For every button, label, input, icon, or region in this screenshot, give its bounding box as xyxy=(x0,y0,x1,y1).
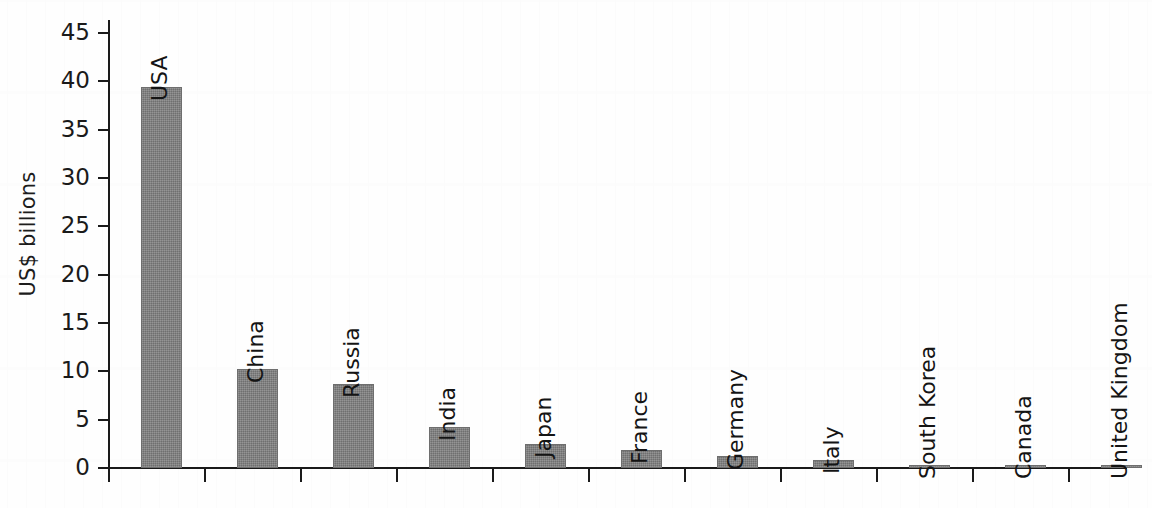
y-tick-label: 35 xyxy=(30,118,90,141)
bar-category-label: India xyxy=(437,387,459,441)
x-tick-mark xyxy=(204,469,206,482)
x-tick-mark xyxy=(588,469,590,482)
y-tick-label: 30 xyxy=(30,166,90,189)
bar-category-label: Italy xyxy=(821,427,843,475)
y-tick-label: 25 xyxy=(30,214,90,237)
x-tick-mark xyxy=(780,469,782,482)
y-tick-mark xyxy=(98,80,110,82)
y-tick-mark xyxy=(98,225,110,227)
y-axis-line xyxy=(108,20,110,469)
y-tick-label: 20 xyxy=(30,263,90,286)
y-tick-label: 45 xyxy=(30,21,90,44)
y-tick-mark xyxy=(98,322,110,324)
bar-chart: US$ billions 051015202530354045 USAChina… xyxy=(0,0,1152,508)
bar-category-label: Russia xyxy=(341,327,363,398)
x-tick-mark xyxy=(876,469,878,482)
y-tick-label: 10 xyxy=(30,359,90,382)
bar-category-label: South Korea xyxy=(917,346,939,479)
bar-category-label: Canada xyxy=(1013,395,1035,479)
bar-category-label: Germany xyxy=(725,369,747,470)
bar-category-label: Japan xyxy=(533,396,555,457)
y-tick-label: 15 xyxy=(30,311,90,334)
bar-category-label: USA xyxy=(149,56,171,102)
bar-category-label: United Kingdom xyxy=(1109,302,1131,479)
y-tick-mark xyxy=(98,32,110,34)
x-tick-mark xyxy=(396,469,398,482)
bar-category-label: France xyxy=(629,390,651,463)
x-tick-mark xyxy=(492,469,494,482)
x-tick-mark xyxy=(108,469,110,482)
bar-category-label: China xyxy=(245,321,267,384)
y-tick-label: 0 xyxy=(30,456,90,479)
y-tick-label: 40 xyxy=(30,69,90,92)
bar xyxy=(141,87,182,468)
x-tick-mark xyxy=(684,469,686,482)
y-tick-label: 5 xyxy=(30,408,90,431)
y-tick-mark xyxy=(98,129,110,131)
x-tick-mark xyxy=(300,469,302,482)
x-tick-mark xyxy=(972,469,974,482)
y-tick-mark xyxy=(98,419,110,421)
x-tick-mark xyxy=(1068,469,1070,482)
y-tick-mark xyxy=(98,274,110,276)
bar xyxy=(237,369,278,468)
y-tick-mark xyxy=(98,177,110,179)
y-tick-mark xyxy=(98,370,110,372)
